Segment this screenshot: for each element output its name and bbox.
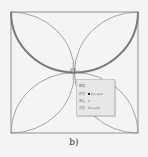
layer-label: 图层 (79, 99, 88, 103)
cursor-grip-icon (66, 62, 80, 80)
color-label: 颜色 (79, 92, 88, 96)
figure-caption: b) (0, 137, 148, 147)
semicircle-bottom (11, 73, 138, 133)
drawing-canvas[interactable] (0, 0, 148, 157)
tooltip-row-color: 颜色 ByLayer (79, 90, 112, 97)
color-swatch-icon (88, 93, 90, 95)
tooltip-title: 圆弧 (79, 82, 112, 90)
quick-properties-tooltip: 圆弧 颜色 ByLayer 图层 0 线型 ByLayer (76, 79, 115, 116)
tooltip-row-linetype: 线型 ByLayer (79, 104, 112, 111)
linetype-value: ByLayer (88, 106, 100, 110)
semicircle-top-selected[interactable] (11, 12, 138, 72)
tooltip-row-layer: 图层 0 (79, 97, 112, 104)
color-value: ByLayer (91, 92, 103, 96)
linetype-label: 线型 (79, 106, 88, 110)
layer-value: 0 (88, 99, 90, 103)
